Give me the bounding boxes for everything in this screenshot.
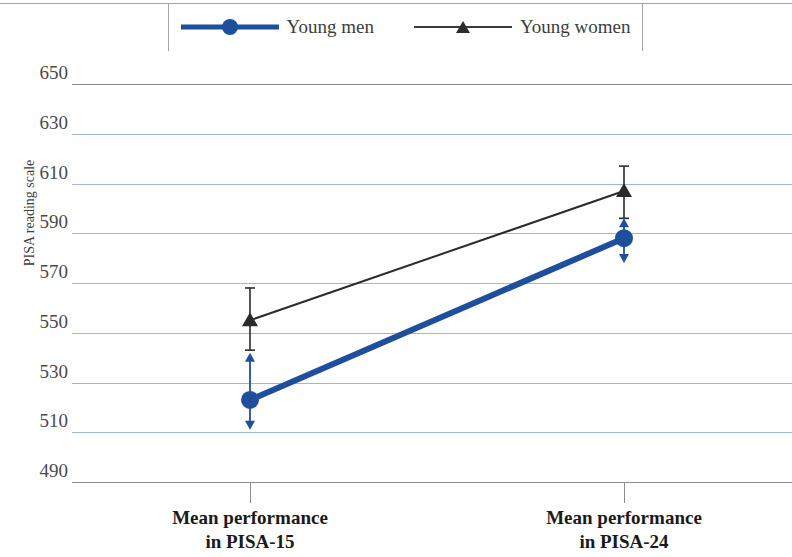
x-axis-label-pisa-24: Mean performance in PISA-24 [494,506,754,555]
x-axis-label-pisa-15-line1: Mean performance [120,506,380,530]
y-tick-label-590: 590 [22,211,68,233]
y-tick-label-650: 650 [22,62,68,84]
y-tick-label-490: 490 [22,460,68,482]
y-tick-label-510: 510 [22,410,68,432]
y-tick-label-610: 610 [22,162,68,184]
y-tick-label-570: 570 [22,261,68,283]
legend-swatch-young-men [181,18,279,36]
legend-label-young-women: Young women [520,16,631,38]
gridline-510 [72,432,792,433]
legend-label-young-men: Young men [287,16,374,38]
triangle-marker-icon [456,21,470,33]
gridline-610 [72,184,792,185]
y-tick-label-530: 530 [22,361,68,383]
legend-entry-young-men[interactable]: Young men [181,16,374,38]
legend-entry-young-women[interactable]: Young women [414,16,631,38]
gridline-590 [72,233,792,234]
y-tick-label-630: 630 [22,112,68,134]
chart-legend: Young men Young women [168,3,643,51]
circle-marker-icon [222,19,238,35]
x-tick-pisa-15 [250,482,251,503]
plot-area [72,84,792,482]
gridline-570 [72,283,792,284]
gridline-530 [72,383,792,384]
x-axis-label-pisa-24-line1: Mean performance [494,506,754,530]
gridline-650 [72,84,792,85]
x-tick-pisa-24 [624,482,625,503]
legend-swatch-young-women [414,18,512,36]
gridline-550 [72,333,792,334]
y-tick-label-550: 550 [22,311,68,333]
x-axis-label-pisa-15: Mean performance in PISA-15 [120,506,380,555]
chart-container: Young men Young women PISA reading scale… [0,0,792,557]
x-axis-label-pisa-15-line2: in PISA-15 [120,530,380,554]
x-axis-label-pisa-24-line2: in PISA-24 [494,530,754,554]
gridline-490 [72,482,792,483]
gridline-630 [72,134,792,135]
